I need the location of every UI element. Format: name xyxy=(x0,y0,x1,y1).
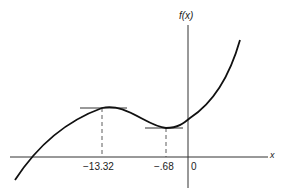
chart-canvas xyxy=(0,0,284,190)
tick-label-max: −13.32 xyxy=(83,162,114,172)
tick-label-zero: 0 xyxy=(191,162,197,172)
y-axis-label: f(x) xyxy=(179,11,193,21)
tick-label-min: −.68 xyxy=(154,162,174,172)
function-curve xyxy=(15,40,240,180)
x-axis-label: x xyxy=(270,151,275,160)
